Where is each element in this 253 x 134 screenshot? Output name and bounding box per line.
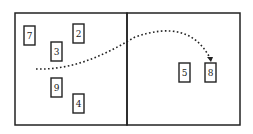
box-4: 4 (73, 94, 84, 113)
box-label: 5 (182, 68, 188, 78)
box-label: 7 (27, 31, 33, 41)
box-label: 8 (208, 68, 214, 78)
box-5: 5 (179, 63, 190, 82)
box-9: 9 (51, 78, 62, 97)
box-7: 7 (24, 26, 35, 45)
diagram-canvas: 7 2 3 9 4 5 8 (0, 0, 253, 134)
arrowhead-icon (207, 57, 213, 62)
box-2: 2 (73, 24, 84, 43)
box-8: 8 (205, 63, 216, 82)
box-3: 3 (51, 42, 62, 61)
box-label: 2 (76, 29, 82, 39)
box-label: 9 (54, 83, 60, 93)
box-label: 4 (76, 99, 82, 109)
box-label: 3 (54, 47, 60, 57)
